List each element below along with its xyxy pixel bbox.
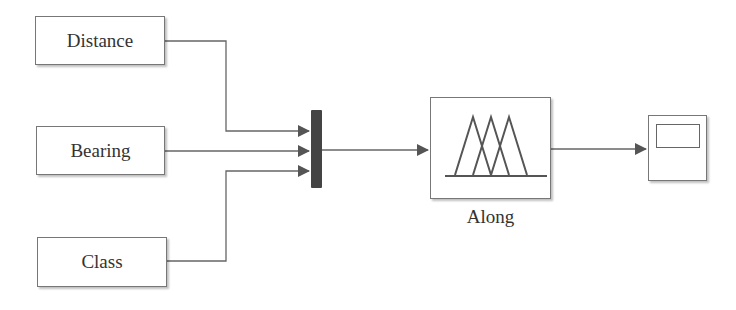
wire-class (167, 171, 309, 261)
mux-block (311, 110, 322, 188)
fuzzy-logic-block-along[interactable] (430, 97, 551, 199)
input-block-class[interactable]: Class (37, 237, 167, 287)
scope-block[interactable] (648, 115, 707, 181)
input-label-distance: Distance (67, 30, 133, 52)
triangular-membership-functions-icon (430, 97, 551, 199)
input-block-distance[interactable]: Distance (35, 16, 165, 65)
fuzzy-block-label: Along (430, 206, 551, 228)
input-block-bearing[interactable]: Bearing (36, 126, 165, 175)
scope-icon (656, 124, 700, 148)
wire-distance (165, 41, 309, 131)
input-label-class: Class (81, 251, 122, 273)
input-label-bearing: Bearing (70, 140, 130, 162)
